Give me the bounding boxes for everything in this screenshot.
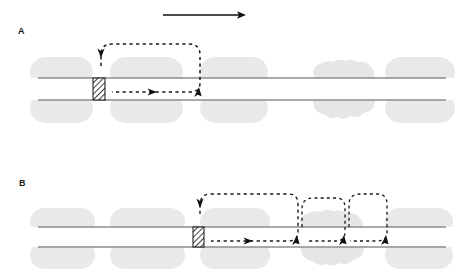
- blob-bottom: [200, 93, 268, 123]
- blob-top: [385, 208, 453, 236]
- blob-bottom-irregular: [300, 247, 364, 266]
- arrowhead-up: [292, 235, 300, 245]
- hatched-block: [193, 227, 204, 247]
- panel-b-label: B: [19, 178, 26, 188]
- panel-b-blobs-top: [30, 208, 453, 236]
- blob-top-irregular: [313, 60, 374, 78]
- blob-top: [110, 57, 183, 87]
- arrowhead-up: [194, 87, 202, 97]
- blob-top: [110, 208, 185, 236]
- blob-bottom-irregular: [313, 100, 375, 119]
- hatched-block: [93, 78, 105, 100]
- panel-a-label: A: [18, 26, 25, 36]
- panel-b-blobs-bottom: [30, 241, 453, 269]
- blob-top: [200, 208, 270, 236]
- blob-bottom: [200, 241, 270, 269]
- arrowhead-right: [148, 88, 158, 95]
- blob-top: [385, 57, 455, 87]
- arrowhead-down: [196, 199, 203, 209]
- blob-top: [200, 57, 268, 87]
- blob-top: [30, 208, 95, 236]
- figure-canvas: A: [0, 0, 476, 277]
- blob-bottom: [110, 93, 183, 123]
- arrowhead-up: [381, 235, 389, 245]
- panel-a: A: [18, 26, 455, 123]
- blob-bottom: [30, 93, 93, 123]
- blob-bottom: [385, 93, 455, 123]
- flow-direction-arrow: [163, 11, 246, 19]
- blob-bottom: [385, 241, 453, 269]
- blob-bottom: [30, 241, 95, 269]
- blob-top: [30, 57, 93, 87]
- blob-top-irregular: [300, 210, 363, 227]
- figure-root: A: [0, 0, 476, 277]
- panel-b: B: [19, 178, 453, 269]
- blob-bottom: [110, 241, 185, 269]
